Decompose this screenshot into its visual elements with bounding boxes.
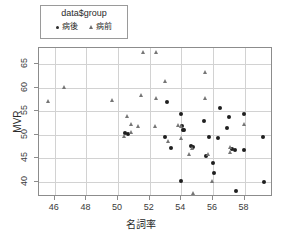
data-point <box>233 148 237 152</box>
x-axis-tick <box>54 196 55 200</box>
data-point <box>218 106 222 110</box>
x-axis-tick <box>212 196 213 200</box>
plot-panel <box>38 47 272 196</box>
gridline-horizontal <box>39 88 271 89</box>
gridline-vertical <box>181 48 182 195</box>
plot-area <box>39 48 271 195</box>
data-point <box>62 85 66 89</box>
y-axis-tick <box>34 134 38 135</box>
gridline-horizontal <box>39 182 271 183</box>
y-axis-title: MVR <box>12 104 23 138</box>
legend: data$group 病後 病前 <box>40 5 128 39</box>
x-axis-tick <box>149 196 150 200</box>
data-point <box>125 114 129 118</box>
data-point <box>207 135 211 139</box>
data-point <box>182 128 186 132</box>
data-point <box>169 146 173 150</box>
data-point <box>242 122 246 126</box>
data-point <box>139 93 143 97</box>
legend-title: data$group <box>41 8 127 19</box>
legend-label-1: 病前 <box>96 22 112 32</box>
data-point <box>234 189 238 193</box>
gridline-horizontal <box>39 111 271 112</box>
data-point <box>153 124 157 128</box>
x-axis-tick-label: 48 <box>80 202 90 212</box>
y-axis-tick <box>34 63 38 64</box>
y-axis-tick-label: 45 <box>19 149 29 165</box>
y-axis-tick-label: 65 <box>19 55 29 71</box>
y-axis-tick-label: 40 <box>19 173 29 189</box>
data-point <box>228 150 232 154</box>
x-axis-tick <box>180 196 181 200</box>
data-point <box>210 179 214 183</box>
data-point <box>163 79 167 83</box>
data-point <box>261 135 265 139</box>
data-point <box>262 180 266 184</box>
data-point <box>206 152 210 156</box>
data-point <box>179 112 183 116</box>
data-point <box>212 171 216 175</box>
data-point <box>211 161 215 165</box>
data-point <box>203 70 207 74</box>
gridline-vertical <box>118 48 119 195</box>
triangle-marker-icon <box>89 25 93 29</box>
data-point <box>225 126 229 130</box>
data-point <box>122 134 126 138</box>
data-point <box>46 99 50 103</box>
gridline-horizontal <box>39 158 271 159</box>
data-point <box>129 130 133 134</box>
y-axis-tick-label: 60 <box>19 79 29 95</box>
data-point <box>227 115 231 119</box>
data-point <box>163 135 167 139</box>
y-axis-tick <box>34 87 38 88</box>
data-point <box>242 148 246 152</box>
data-point <box>187 152 191 156</box>
data-point <box>129 122 133 126</box>
data-point <box>165 100 169 104</box>
y-axis-tick <box>34 181 38 182</box>
data-point <box>228 145 232 149</box>
data-point <box>190 146 194 150</box>
data-point <box>216 136 220 140</box>
x-axis-tick <box>117 196 118 200</box>
gridline-vertical <box>55 48 56 195</box>
data-point <box>202 119 206 123</box>
data-point <box>179 136 183 140</box>
data-point <box>242 112 246 116</box>
legend-label-0: 病後 <box>62 22 78 32</box>
data-point <box>154 96 158 100</box>
x-axis-tick <box>85 196 86 200</box>
gridline-horizontal <box>39 64 271 65</box>
gridline-vertical <box>86 48 87 195</box>
data-point <box>191 191 195 195</box>
data-point <box>179 179 183 183</box>
data-point <box>166 139 170 143</box>
y-axis-tick <box>34 157 38 158</box>
legend-entries: 病後 病前 <box>41 22 127 32</box>
x-axis-tick-label: 54 <box>175 202 185 212</box>
x-axis-tick <box>244 196 245 200</box>
x-axis-title: 名詞率 <box>0 216 282 231</box>
legend-entry-0: 病後 <box>56 22 78 32</box>
data-point <box>154 50 158 54</box>
x-axis-tick-label: 46 <box>49 202 59 212</box>
data-point <box>179 124 183 128</box>
x-axis-tick-label: 50 <box>112 202 122 212</box>
data-point <box>136 124 140 128</box>
gridline-vertical <box>150 48 151 195</box>
y-axis-tick <box>34 110 38 111</box>
x-axis-tick-label: 58 <box>239 202 249 212</box>
x-axis-tick-label: 52 <box>144 202 154 212</box>
gridline-horizontal <box>39 135 271 136</box>
data-point <box>203 96 207 100</box>
data-point <box>110 98 114 102</box>
legend-entry-1: 病前 <box>89 22 112 32</box>
data-point <box>141 50 145 54</box>
x-axis-tick-label: 56 <box>207 202 217 212</box>
circle-marker-icon <box>56 26 59 29</box>
scatter-plot-figure: data$group 病後 病前 46485052545658404550556… <box>0 0 282 235</box>
